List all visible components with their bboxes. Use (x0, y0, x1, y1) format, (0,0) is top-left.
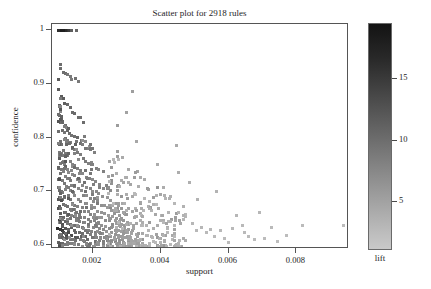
scatter-point (89, 172, 92, 175)
scatter-point (110, 166, 113, 169)
scatter-point (75, 219, 78, 222)
scatter-point (121, 227, 124, 230)
y-tick-label: 1 (3, 24, 44, 33)
scatter-point (173, 202, 176, 205)
scatter-point (111, 174, 114, 177)
scatter-point (163, 239, 166, 242)
x-tick-mark (92, 248, 93, 253)
scatter-point (98, 186, 101, 189)
scatter-point (125, 229, 128, 232)
scatter-point (145, 224, 148, 227)
scatter-point (58, 178, 61, 181)
scatter-point (143, 178, 146, 181)
scatter-point (177, 211, 180, 214)
scatter-point (86, 238, 89, 241)
scatter-point (131, 210, 134, 213)
scatter-point (173, 235, 176, 238)
scatter-point (73, 243, 76, 246)
scatter-point (127, 181, 130, 184)
scatter-point (97, 192, 100, 195)
y-tick-mark (46, 244, 51, 245)
scatter-point (90, 168, 93, 171)
scatter-point (162, 234, 165, 237)
scatter-point (184, 239, 187, 242)
scatter-point (130, 231, 133, 234)
scatter-point (71, 203, 74, 206)
scatter-point (86, 177, 89, 180)
scatter-point (68, 142, 71, 145)
scatter-point (285, 234, 288, 237)
scatter-point (131, 247, 134, 248)
scatter-point (73, 166, 76, 169)
scatter-point (144, 244, 147, 247)
scatter-point (219, 229, 222, 232)
scatter-point (81, 172, 84, 175)
scatter-point (120, 217, 123, 220)
scatter-point (68, 177, 71, 180)
scatter-point (129, 222, 132, 225)
scatter-point (71, 146, 74, 149)
scatter-point (108, 233, 111, 236)
scatter-point (160, 244, 163, 247)
scatter-point (223, 237, 226, 240)
scatter-point (215, 190, 218, 193)
scatter-point (78, 231, 81, 234)
scatter-point (107, 186, 110, 189)
scatter-point (57, 142, 60, 145)
scatter-point (74, 143, 77, 146)
scatter-point (195, 229, 198, 232)
scatter-point (152, 227, 155, 230)
scatter-point (89, 143, 92, 146)
scatter-point (90, 207, 93, 210)
scatter-point (81, 245, 84, 248)
scatter-point (127, 238, 130, 241)
x-tick-label: 0.004 (135, 256, 185, 265)
scatter-point (119, 245, 122, 248)
scatter-point (59, 233, 62, 236)
scatter-point (63, 195, 66, 198)
y-axis-title: confidence (10, 87, 20, 167)
scatter-point (173, 224, 176, 227)
scatter-point (152, 203, 155, 206)
scatter-point (196, 198, 199, 201)
colorbar-tick-mark (392, 78, 397, 79)
scatter-point (70, 224, 73, 227)
scatter-point (118, 224, 121, 227)
scatter-point (77, 177, 80, 180)
scatter-point (156, 163, 159, 166)
scatter-point (105, 184, 108, 187)
scatter-point (139, 219, 142, 222)
scatter-point (59, 153, 62, 156)
scatter-point (67, 194, 70, 197)
scatter-point (81, 143, 84, 146)
scatter-point (140, 207, 143, 210)
scatter-point (98, 216, 101, 219)
scatter-point (148, 245, 151, 248)
scatter-point (263, 237, 266, 240)
scatter-point (89, 147, 92, 150)
scatter-point (67, 197, 70, 200)
scatter-point (59, 108, 62, 111)
scatter-point (128, 245, 131, 248)
scatter-point (64, 232, 67, 235)
scatter-point (227, 241, 230, 244)
plot-panel[interactable] (51, 23, 348, 248)
scatter-point (117, 204, 120, 207)
scatter-point (162, 186, 165, 189)
scatter-point (139, 238, 142, 241)
scatter-point (135, 209, 138, 212)
colorbar-tick-mark (392, 201, 397, 202)
scatter-point (155, 203, 158, 206)
colorbar: 51015 (368, 23, 392, 250)
scatter-point (177, 171, 180, 174)
scatter-point (276, 240, 279, 243)
scatter-point (87, 245, 90, 248)
scatter-point (79, 200, 82, 203)
scatter-point (157, 207, 160, 210)
scatter-point (59, 63, 62, 66)
scatter-point (127, 168, 130, 171)
scatter-point (61, 29, 64, 32)
scatter-point (125, 176, 128, 179)
scatter-point (59, 97, 62, 100)
scatter-point (57, 29, 60, 32)
